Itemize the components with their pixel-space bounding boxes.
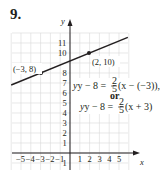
svg-text:3: 3 <box>97 154 101 164</box>
svg-text:6: 6 <box>63 88 67 98</box>
svg-text:7: 7 <box>63 78 67 88</box>
svg-text:5: 5 <box>117 154 121 164</box>
x-axis-label: x <box>139 157 144 167</box>
point-label-neg3-8: (−3, 8) <box>13 64 36 74</box>
svg-text:2: 2 <box>63 128 67 138</box>
svg-text:5: 5 <box>119 104 124 115</box>
x-axis-arrow-icon <box>133 151 140 156</box>
svg-text:5: 5 <box>63 98 67 108</box>
svg-text:4: 4 <box>107 154 112 164</box>
svg-text:yy − 8 =: yy − 8 = <box>79 101 114 112</box>
svg-text:−5: −5 <box>16 154 25 164</box>
svg-text:10: 10 <box>58 48 67 58</box>
svg-text:3: 3 <box>63 118 67 128</box>
svg-text:−4: −4 <box>26 154 36 164</box>
svg-text:1: 1 <box>63 158 67 168</box>
y-axis-arrow-icon <box>68 19 73 26</box>
svg-text:−2: −2 <box>45 154 54 164</box>
svg-text:8: 8 <box>63 68 67 78</box>
svg-text:−3: −3 <box>36 154 45 164</box>
coordinate-graph: x y −5−4−3−2−112345 1123456781011 (−3, 8… <box>0 0 161 185</box>
svg-text:1: 1 <box>63 138 67 148</box>
svg-text:yy − 8 =: yy − 8 = <box>72 80 107 91</box>
point-label-2-10: (2, 10) <box>92 57 115 67</box>
svg-text:2: 2 <box>88 154 92 164</box>
x-tick-labels: −5−4−3−2−112345 <box>16 154 121 164</box>
svg-text:11: 11 <box>58 38 66 48</box>
point-2-10 <box>87 51 91 55</box>
svg-text:1: 1 <box>78 154 82 164</box>
y-axis-label: y <box>60 16 65 26</box>
svg-text:(x − (−3)),: (x − (−3)), <box>118 80 160 92</box>
svg-text:(x + 3): (x + 3) <box>125 101 152 113</box>
